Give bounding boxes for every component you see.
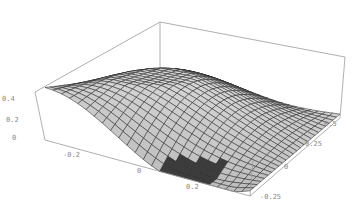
- y-tick-label: -0.25: [260, 193, 281, 201]
- z-tick-label: 0: [12, 134, 16, 142]
- box-left-vertical-edge: [35, 92, 45, 140]
- y-tick-label: 0: [284, 163, 288, 171]
- surface-mesh: [45, 68, 340, 191]
- y-tick-label: 0.5: [324, 120, 337, 128]
- z-tick-label: 0.2: [6, 116, 19, 124]
- x-tick-label: 0.2: [186, 183, 199, 191]
- x-tick-label: 0: [137, 167, 141, 175]
- x-tick-label: -0.2: [63, 151, 80, 159]
- box-right-vertical-edge: [340, 57, 345, 118]
- surface-plot: 0.4 0.2 0 -0.2 0 0.2 0.5 0.25 0 -0.25: [0, 0, 363, 207]
- z-axis-ticks: 0.4 0.2 0: [2, 95, 19, 142]
- z-tick-label: 0.4: [2, 95, 15, 103]
- y-tick-label: 0.25: [305, 140, 322, 148]
- box-top-back-right-edge: [160, 22, 345, 57]
